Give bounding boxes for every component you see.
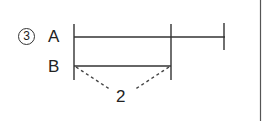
- diagram-lines: [0, 0, 262, 121]
- brace-right-dotted: [134, 67, 169, 90]
- label-difference: 2: [116, 88, 125, 105]
- segment-comparison-diagram: 3 A B 2: [0, 0, 262, 121]
- brace-left-dotted: [76, 67, 111, 90]
